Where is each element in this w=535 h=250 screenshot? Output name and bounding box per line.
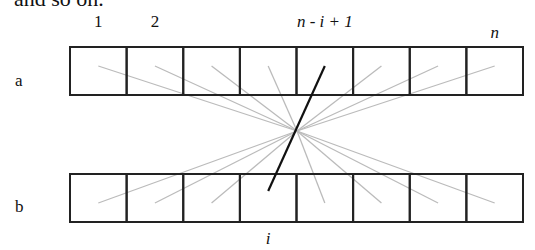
array-b-cell-8 xyxy=(466,174,523,222)
gray-line-to-b-3 xyxy=(212,131,297,203)
bottom-index-labels: i xyxy=(266,229,271,248)
gray-line-from-a-1 xyxy=(98,66,297,131)
array-a-cell-1 xyxy=(70,47,127,95)
array-b-cell-3 xyxy=(183,174,240,222)
gray-line-from-a-7 xyxy=(297,66,438,131)
gray-line-to-b-2 xyxy=(155,131,297,203)
array-b-cell-2 xyxy=(127,174,184,222)
array-a xyxy=(70,47,523,95)
top-index-labels: 12n - i + 1n xyxy=(94,12,499,42)
top-label-4: n xyxy=(490,23,499,42)
gray-line-to-b-5 xyxy=(297,131,325,203)
array-b-cell-7 xyxy=(410,174,467,222)
array-a-cell-6 xyxy=(353,47,410,95)
array-b xyxy=(70,174,523,222)
row-label-a: a xyxy=(15,71,23,90)
gray-line-from-a-2 xyxy=(155,66,297,131)
top-label-1: 1 xyxy=(94,12,103,31)
array-b-cell-1 xyxy=(70,174,127,222)
gray-line-to-b-7 xyxy=(297,131,438,203)
gray-line-to-b-8 xyxy=(297,131,495,203)
array-a-cell-4 xyxy=(240,47,297,95)
array-b-cell-6 xyxy=(353,174,410,222)
array-a-cell-2 xyxy=(127,47,184,95)
gray-line-from-a-4 xyxy=(268,66,297,131)
gray-line-from-a-8 xyxy=(297,66,495,131)
gray-line-from-a-3 xyxy=(212,66,297,131)
array-a-cell-8 xyxy=(466,47,523,95)
array-a-cell-7 xyxy=(410,47,467,95)
array-b-cell-4 xyxy=(240,174,297,222)
bottom-label-1: i xyxy=(266,229,271,248)
array-a-cell-3 xyxy=(183,47,240,95)
array-reversal-diagram: and so on. a b 12n - i + 1n i xyxy=(0,0,535,250)
top-label-3: n - i + 1 xyxy=(297,12,353,31)
caption-fragment: and so on. xyxy=(14,0,104,11)
row-label-b: b xyxy=(15,197,24,216)
array-a-cell-5 xyxy=(297,47,354,95)
top-label-2: 2 xyxy=(151,12,160,31)
gray-line-to-b-1 xyxy=(98,131,297,203)
array-b-cell-5 xyxy=(297,174,354,222)
